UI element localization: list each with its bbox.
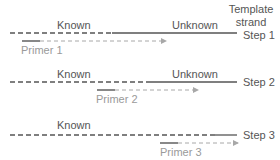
known-label: Known [57,120,91,131]
primer-label: Primer 1 [21,45,63,56]
primer-label: Primer 3 [160,147,202,158]
template-strand-label: Template strand [226,3,276,29]
step-label: Step 3 [243,130,275,141]
primer-label: Primer 2 [96,94,138,105]
known-label: Known [57,20,91,31]
template-label-line1: Template [226,3,276,16]
unknown-label: Unknown [172,20,218,31]
step-2-group [10,82,237,90]
step-1-group [10,33,237,41]
unknown-label: Unknown [172,69,218,80]
template-label-line2: strand [226,16,276,29]
known-label: Known [57,69,91,80]
step-label: Step 2 [243,77,275,88]
step-label: Step 1 [243,30,275,41]
step-3-group [10,135,238,143]
